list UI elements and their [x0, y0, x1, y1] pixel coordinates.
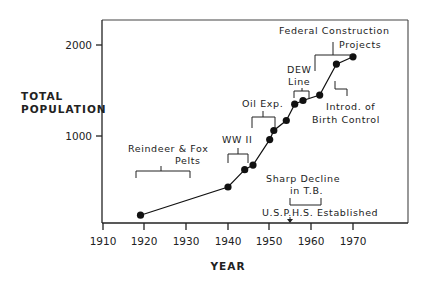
annotation-reindeer: Reindeer & Fox Pelts [128, 143, 208, 178]
bracket-birth-control [335, 81, 347, 96]
x-tick-label-1910: 1910 [90, 235, 117, 247]
data-point [283, 117, 290, 124]
data-point [333, 61, 340, 68]
x-tick-label-1960: 1960 [298, 235, 325, 247]
x-axis-title: YEAR [210, 260, 246, 272]
annotation-birth-line2: Birth Control [312, 114, 380, 125]
annotation-tb-line1: Sharp Decline [266, 173, 340, 184]
annotation-oil-label: Oil Exp. [242, 98, 283, 109]
annotation-dew: DEW Line [287, 64, 312, 98]
x-tick-label-1930: 1930 [173, 235, 200, 247]
annotation-ww2: WW II [222, 134, 252, 163]
bracket-tb [290, 198, 321, 205]
bracket-dew [294, 88, 309, 98]
annotation-ww2-label: WW II [222, 134, 252, 145]
x-tick-label-1920: 1920 [131, 235, 158, 247]
data-point [299, 97, 306, 104]
annotation-dew-line2: Line [288, 76, 310, 87]
x-tick-label-1950: 1950 [256, 235, 283, 247]
x-tick-label-1970: 1970 [340, 235, 367, 247]
y-ticks: 2000 1000 [65, 39, 102, 142]
annotation-federal-line1: Federal Construction [279, 25, 390, 36]
annotation-usphs: U.S.P.H.S. Established [262, 207, 378, 223]
data-point [316, 92, 323, 99]
x-ticks: 1910 1920 1930 1940 1950 1960 1970 [90, 223, 367, 247]
data-point [349, 53, 356, 60]
annotation-birth-control: Introd. of Birth Control [312, 81, 380, 125]
bracket-oil [252, 111, 275, 128]
data-point [266, 136, 273, 143]
annotation-birth-line1: Introd. of [326, 101, 375, 112]
annotation-reindeer-line2: Pelts [175, 155, 201, 166]
data-point [241, 166, 248, 173]
bracket-reindeer [136, 166, 190, 178]
annotation-tb: Sharp Decline in T.B. [266, 173, 340, 205]
data-point [291, 101, 298, 108]
data-point [249, 162, 256, 169]
annotation-oil: Oil Exp. [242, 98, 283, 128]
annotation-usphs-label: U.S.P.H.S. Established [262, 207, 378, 218]
data-point [224, 183, 231, 190]
annotation-dew-line1: DEW [287, 64, 312, 75]
annotation-tb-line2: in T.B. [290, 185, 323, 196]
y-tick-label-2000: 2000 [65, 39, 92, 51]
data-point [270, 127, 277, 134]
bracket-ww2 [228, 148, 248, 163]
data-point [137, 212, 144, 219]
annotation-reindeer-line1: Reindeer & Fox [128, 143, 208, 154]
y-tick-label-1000: 1000 [65, 130, 92, 142]
population-chart: 2000 1000 TOTAL POPULATION 1910 1920 193… [0, 0, 428, 282]
x-tick-label-1940: 1940 [215, 235, 242, 247]
y-axis-title-line1: TOTAL [21, 90, 63, 102]
annotation-federal-line2: Projects [339, 39, 381, 50]
y-axis-title-line2: POPULATION [21, 103, 107, 115]
